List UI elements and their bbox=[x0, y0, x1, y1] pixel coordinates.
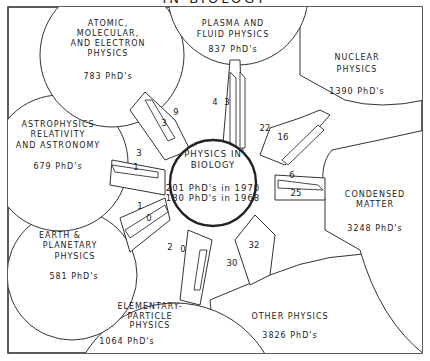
svg-text:ATOMIC,: ATOMIC, bbox=[88, 19, 128, 28]
svg-text:16: 16 bbox=[278, 132, 289, 142]
svg-text:1390 PhD's: 1390 PhD's bbox=[329, 87, 384, 96]
svg-text:PLANETARY: PLANETARY bbox=[43, 241, 98, 250]
center-stat-1970: 201 PhD's in 1970 bbox=[166, 183, 261, 193]
svg-text:EARTH &: EARTH & bbox=[39, 231, 81, 240]
svg-text:AND ASTRONOMY: AND ASTRONOMY bbox=[16, 141, 101, 150]
svg-text:1: 1 bbox=[137, 201, 142, 211]
svg-text:PHYSICS: PHYSICS bbox=[55, 252, 96, 261]
svg-text:581 PhD's: 581 PhD's bbox=[49, 272, 98, 281]
svg-text:NUCLEAR: NUCLEAR bbox=[335, 53, 380, 62]
svg-text:1064 PhD's: 1064 PhD's bbox=[99, 337, 154, 346]
svg-text:PHYSICS: PHYSICS bbox=[337, 65, 378, 74]
svg-text:RELATIVITY: RELATIVITY bbox=[31, 130, 86, 139]
svg-text:CONDENSED: CONDENSED bbox=[345, 190, 405, 199]
svg-text:3248 PhD's: 3248 PhD's bbox=[347, 224, 402, 233]
svg-text:3826 PhD's: 3826 PhD's bbox=[262, 331, 317, 340]
svg-text:FLUID PHYSICS: FLUID PHYSICS bbox=[197, 30, 269, 39]
svg-text:PLASMA AND: PLASMA AND bbox=[202, 19, 265, 28]
svg-text:22: 22 bbox=[260, 123, 271, 133]
svg-text:ASTROPHYSICS: ASTROPHYSICS bbox=[21, 120, 94, 129]
center-title-1: PHYSICS IN bbox=[184, 149, 242, 159]
svg-text:PARTICLE: PARTICLE bbox=[127, 312, 172, 321]
svg-text:679 PhD's: 679 PhD's bbox=[33, 162, 82, 171]
svg-text:PHYSICS: PHYSICS bbox=[88, 49, 129, 58]
physics-flow-diagram: PHYSICS IN BIOLOGY 201 PhD's in 1970 180… bbox=[0, 0, 430, 361]
svg-text:30: 30 bbox=[227, 258, 238, 268]
svg-text:3: 3 bbox=[136, 148, 141, 158]
center-stat-1968: 180 PhD's in 1968 bbox=[166, 193, 261, 203]
svg-text:2: 2 bbox=[167, 242, 172, 252]
svg-text:6: 6 bbox=[289, 170, 294, 180]
svg-text:MATTER: MATTER bbox=[356, 200, 394, 209]
svg-text:9: 9 bbox=[173, 107, 178, 117]
svg-text:0: 0 bbox=[180, 244, 185, 254]
svg-text:3: 3 bbox=[161, 118, 166, 128]
svg-text:PHYSICS: PHYSICS bbox=[130, 321, 171, 330]
svg-text:ELEMENTARY-: ELEMENTARY- bbox=[117, 302, 182, 311]
svg-text:837 PhD's: 837 PhD's bbox=[208, 45, 257, 54]
svg-text:4: 4 bbox=[212, 97, 217, 107]
svg-text:783 PhD's: 783 PhD's bbox=[83, 72, 132, 81]
svg-text:1: 1 bbox=[133, 162, 138, 172]
svg-text:3: 3 bbox=[224, 97, 229, 107]
svg-text:MOLECULAR,: MOLECULAR, bbox=[77, 29, 139, 38]
svg-text:AND ELECTRON: AND ELECTRON bbox=[70, 39, 145, 48]
svg-text:0: 0 bbox=[146, 213, 151, 223]
svg-text:32: 32 bbox=[249, 240, 260, 250]
svg-text:OTHER PHYSICS: OTHER PHYSICS bbox=[251, 312, 328, 321]
center-title-2: BIOLOGY bbox=[191, 160, 236, 170]
svg-text:25: 25 bbox=[291, 188, 302, 198]
